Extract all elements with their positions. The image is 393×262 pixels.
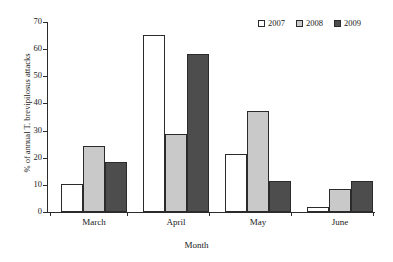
x-tick-mark: [291, 212, 292, 216]
y-tick-mark: [43, 158, 47, 159]
y-tick-mark: [43, 103, 47, 104]
y-tick-label: 50: [34, 70, 43, 80]
bar-june-2007: [307, 207, 329, 212]
y-tick-label: 70: [34, 16, 43, 26]
y-tick-mark: [43, 131, 47, 132]
y-tick-mark: [43, 212, 47, 213]
y-tick-label: 30: [34, 125, 43, 135]
bar-chart: 2007 2008 2009 % of annual T. brevipilos…: [0, 0, 393, 262]
bar-group-bars: [143, 22, 209, 212]
bar-june-2008: [329, 189, 351, 212]
x-tick-mark: [127, 212, 128, 216]
bar-march-2009: [105, 162, 127, 212]
bar-april-2007: [143, 35, 165, 212]
y-tick-mark: [43, 76, 47, 77]
bar-group-bars: [225, 22, 291, 212]
y-tick-label: 60: [34, 43, 43, 53]
x-axis-line: [47, 212, 375, 213]
bar-april-2009: [187, 54, 209, 213]
bar-may-2007: [225, 154, 247, 212]
bar-group-bars: [61, 22, 127, 212]
bar-may-2009: [269, 181, 291, 212]
y-tick-label: 40: [34, 97, 43, 107]
y-tick-mark: [43, 49, 47, 50]
y-tick-label: 10: [34, 179, 43, 189]
bar-group-bars: [307, 22, 373, 212]
y-tick-label: 20: [34, 152, 43, 162]
plot-area: 010203040506070 MarchAprilMayJune: [47, 22, 375, 212]
y-tick-label: 0: [38, 206, 42, 216]
x-tick-mark: [209, 212, 210, 216]
bar-march-2007: [61, 184, 83, 212]
bar-april-2008: [165, 134, 187, 212]
bar-june-2009: [351, 181, 373, 212]
x-tick-mark: [50, 212, 51, 216]
bar-may-2008: [247, 111, 269, 213]
y-tick-mark: [43, 185, 47, 186]
x-axis-title: Month: [0, 240, 393, 250]
x-tick-mark: [373, 212, 374, 216]
bar-march-2008: [83, 146, 105, 212]
y-axis-title: % of annual T. brevipilosus attacks: [22, 13, 32, 213]
x-tick-label-june: June: [280, 217, 393, 227]
y-axis-line: [47, 22, 48, 212]
y-tick-mark: [43, 22, 47, 23]
